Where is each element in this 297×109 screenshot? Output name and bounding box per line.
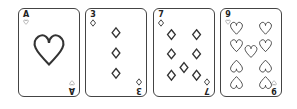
card-rank: 3 bbox=[136, 86, 142, 95]
card-rank: 7 bbox=[204, 86, 210, 95]
card-seven-of-diamonds[interactable]: 7 7 bbox=[153, 8, 215, 97]
card-corner-bottom: A bbox=[68, 78, 76, 94]
card-nine-of-hearts[interactable]: 9 9 bbox=[220, 8, 282, 97]
diamond-icon bbox=[135, 78, 143, 86]
heart-icon bbox=[68, 78, 76, 86]
card-three-of-diamonds[interactable]: 3 3 bbox=[85, 8, 147, 97]
card-ace-of-hearts[interactable]: A A bbox=[18, 8, 80, 97]
diamond-icon bbox=[203, 78, 211, 86]
heart-icon bbox=[270, 78, 278, 86]
card-corner-bottom: 7 bbox=[203, 78, 211, 94]
card-rank: 9 bbox=[271, 86, 277, 95]
card-rank: A bbox=[69, 86, 75, 95]
card-corner-bottom: 3 bbox=[135, 78, 143, 94]
card-corner-bottom: 9 bbox=[270, 78, 278, 94]
